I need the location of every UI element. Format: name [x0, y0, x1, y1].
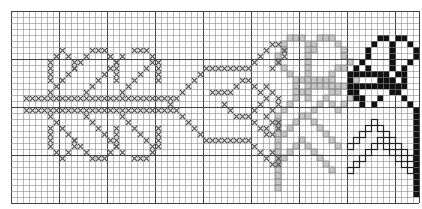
pattern-grid	[11, 11, 420, 204]
stitch-pattern-chart	[11, 11, 420, 204]
